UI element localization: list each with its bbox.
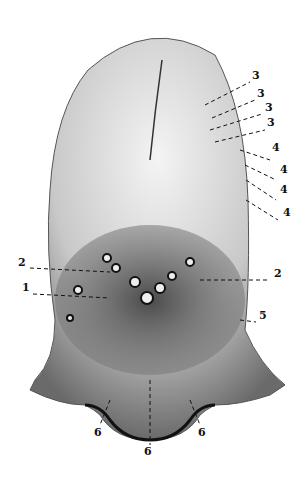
label-l5: 5 xyxy=(259,310,267,321)
label-l4a: 4 xyxy=(272,142,280,153)
label-l3d: 3 xyxy=(267,117,275,128)
label-l1: 1 xyxy=(22,282,30,293)
label-l3c: 3 xyxy=(265,102,273,113)
label-l6L: 6 xyxy=(94,427,102,438)
tongue-illustration xyxy=(0,0,307,489)
label-l4c: 4 xyxy=(280,184,288,195)
label-l6C: 6 xyxy=(144,446,152,457)
label-l3a: 3 xyxy=(252,70,260,81)
label-l4d: 4 xyxy=(283,207,291,218)
label-l3b: 3 xyxy=(257,88,265,99)
label-l2R: 2 xyxy=(274,268,282,279)
label-l2L: 2 xyxy=(18,257,26,268)
label-l4b: 4 xyxy=(280,164,288,175)
label-l6R: 6 xyxy=(198,427,206,438)
